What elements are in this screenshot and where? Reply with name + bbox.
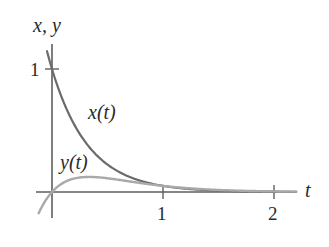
x-curve-label: x(t) (88, 102, 116, 122)
y-curve-label: y(t) (60, 152, 88, 172)
series-line-yt (39, 177, 297, 213)
y-axis-label: x, y (33, 15, 61, 35)
y-tick-label-1: 1 (30, 60, 40, 79)
t-axis-label: t (305, 180, 311, 200)
x-tick-label-2: 2 (268, 204, 278, 223)
x-tick-label-1: 1 (157, 204, 167, 223)
series-group (39, 51, 297, 213)
